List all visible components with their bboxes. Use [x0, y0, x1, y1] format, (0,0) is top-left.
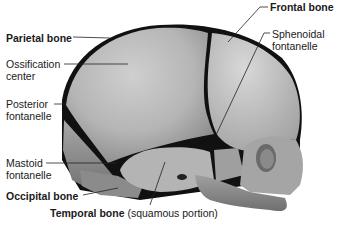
label-temporal-bone-note: (squamous portion) [127, 207, 217, 219]
label-ossification-center-line1: Ossification [6, 58, 60, 70]
label-frontal-bone: Frontal bone [270, 1, 334, 13]
label-mastoid-fontanelle-line2: fontanelle [6, 169, 52, 181]
label-temporal-bone: Temporal bone (squamous portion) [50, 207, 218, 219]
label-sphenoidal-fontanelle-line2: fontanelle [272, 40, 318, 52]
fetal-skull-diagram: Parietal bone Ossification center Poster… [0, 0, 344, 231]
label-mastoid-fontanelle-line1: Mastoid [6, 157, 43, 169]
label-posterior-fontanelle-line2: fontanelle [6, 110, 52, 122]
label-occipital-bone: Occipital bone [6, 190, 78, 202]
label-parietal-bone: Parietal bone [6, 32, 72, 44]
label-temporal-bone-name: Temporal bone [50, 207, 124, 219]
label-posterior-fontanelle-line1: Posterior [6, 98, 48, 110]
label-ossification-center-line2: center [6, 70, 35, 82]
ear-canal-shape [177, 174, 187, 180]
label-sphenoidal-fontanelle-line1: Sphenoidal [272, 28, 325, 40]
